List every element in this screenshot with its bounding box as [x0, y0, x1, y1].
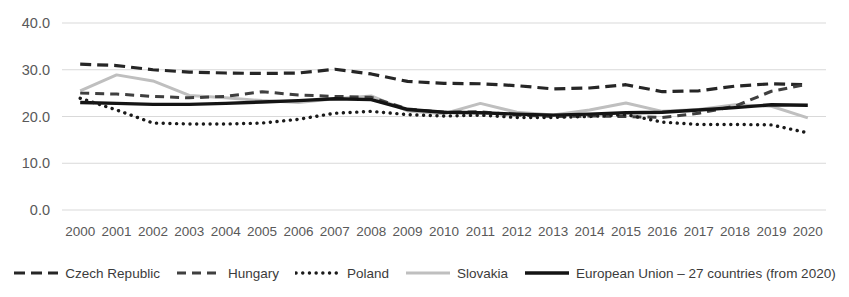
legend-item[interactable]: European Union – 27 countries (from 2020…: [524, 266, 836, 281]
x-axis-tick-label: 2001: [102, 224, 132, 239]
x-axis-tick-label: 2003: [174, 224, 204, 239]
y-axis-tick-label: 0.0: [30, 202, 50, 218]
x-axis-tick-label: 2010: [429, 224, 459, 239]
legend-item-label: Czech Republic: [65, 266, 160, 281]
x-axis-tick-label: 2018: [720, 224, 750, 239]
x-axis-tick-label: 2007: [320, 224, 350, 239]
x-axis-tick-label: 2020: [793, 224, 823, 239]
x-axis-tick-label: 2019: [756, 224, 786, 239]
legend-item-label: European Union – 27 countries (from 2020…: [576, 266, 836, 281]
x-axis-tick-label: 2002: [138, 224, 168, 239]
y-axis-tick-label: 30.0: [22, 62, 50, 78]
legend-swatch-icon: [524, 266, 570, 280]
x-axis-tick-label: 2017: [684, 224, 714, 239]
x-axis-tick-label: 2013: [538, 224, 568, 239]
legend-item-label: Slovakia: [457, 266, 508, 281]
x-axis-tick-label: 2004: [211, 224, 242, 239]
series-line: [80, 64, 808, 92]
legend-item[interactable]: Czech Republic: [13, 266, 160, 281]
legend-swatch-icon: [13, 266, 59, 280]
y-axis-tick-label: 20.0: [22, 109, 50, 125]
legend-item-label: Hungary: [228, 266, 279, 281]
legend-item-label: Poland: [347, 266, 389, 281]
x-axis-tick-label: 2006: [283, 224, 313, 239]
legend-swatch-icon: [295, 266, 341, 280]
y-axis-tick-label: 40.0: [22, 15, 50, 31]
x-axis-tick-label: 2008: [356, 224, 386, 239]
y-axis-tick-label: 10.0: [22, 155, 50, 171]
x-axis-tick-label: 2005: [247, 224, 277, 239]
x-axis-tick-label: 2016: [647, 224, 677, 239]
x-axis-tick-label: 2000: [65, 224, 95, 239]
legend-swatch-icon: [176, 266, 222, 280]
x-axis-tick-label: 2009: [393, 224, 423, 239]
chart-canvas: 0.010.020.030.040.0200020012002200320042…: [0, 0, 849, 250]
x-axis-tick-label: 2011: [466, 224, 495, 239]
x-axis-tick-label: 2012: [502, 224, 532, 239]
legend-item[interactable]: Slovakia: [405, 266, 508, 281]
line-chart: 0.010.020.030.040.0200020012002200320042…: [0, 0, 849, 297]
x-axis-tick-label: 2015: [611, 224, 641, 239]
plot-area: 0.010.020.030.040.0200020012002200320042…: [0, 0, 849, 250]
chart-legend: Czech RepublicHungaryPolandSlovakiaEurop…: [0, 258, 849, 288]
legend-item[interactable]: Poland: [295, 266, 389, 281]
x-axis-tick-label: 2014: [575, 224, 606, 239]
legend-item[interactable]: Hungary: [176, 266, 279, 281]
legend-swatch-icon: [405, 266, 451, 280]
